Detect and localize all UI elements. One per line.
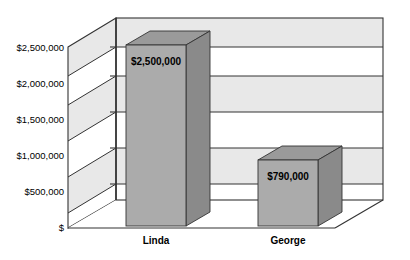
bar-george-value-label: $790,000 <box>267 171 309 182</box>
y-axis-label-2500000: $2,500,000 <box>16 42 64 53</box>
bar-chart-3d: $2,500,000 $790,000 $2,500,000 $2,000,00… <box>0 0 410 260</box>
bar-linda[interactable]: $2,500,000 <box>126 31 210 226</box>
y-axis-label-zero: $ <box>59 222 65 233</box>
y-axis-label-1000000: $1,000,000 <box>16 150 64 161</box>
bar-george-side-face <box>318 146 342 226</box>
bar-linda-value-label: $2,500,000 <box>131 56 181 67</box>
bar-linda-front-face <box>126 45 186 226</box>
y-axis-labels: $2,500,000 $2,000,000 $1,500,000 $1,000,… <box>16 42 64 233</box>
y-axis-label-500000: $500,000 <box>24 186 64 197</box>
category-label-linda: Linda <box>143 235 170 246</box>
y-axis-label-2000000: $2,000,000 <box>16 78 64 89</box>
bar-george[interactable]: $790,000 <box>258 146 342 226</box>
left-wall <box>68 18 116 228</box>
category-labels: Linda George <box>143 235 306 246</box>
bar-linda-side-face <box>186 31 210 226</box>
chart-canvas: $2,500,000 $790,000 $2,500,000 $2,000,00… <box>0 0 410 260</box>
y-axis-label-1500000: $1,500,000 <box>16 114 64 125</box>
category-label-george: George <box>270 235 305 246</box>
